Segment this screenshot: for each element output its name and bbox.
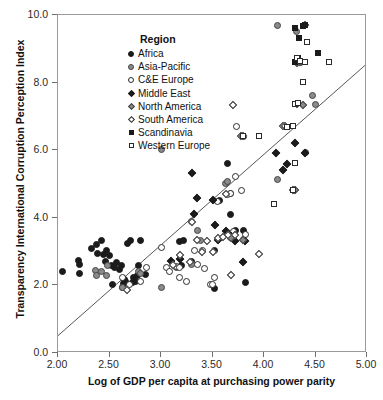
data-point	[240, 133, 246, 139]
data-point	[194, 261, 201, 268]
legend-item-western-europe[interactable]: Western Europe	[124, 139, 210, 152]
x-tick-label: 3.00	[150, 358, 170, 370]
data-point	[116, 266, 123, 273]
x-tick-label: 2.50	[98, 358, 118, 370]
data-point	[312, 101, 319, 108]
legend-item-label: North America	[138, 101, 201, 112]
legend-title: Region	[140, 33, 210, 45]
data-point	[188, 169, 196, 177]
data-point	[158, 284, 165, 291]
circle-filled-icon	[124, 51, 138, 57]
plot-area	[58, 15, 365, 351]
square-open-icon	[124, 143, 138, 148]
data-point	[292, 25, 298, 31]
legend-item-label: Western Europe	[138, 140, 210, 151]
legend-item-africa[interactable]: Africa	[124, 47, 210, 60]
x-tick	[263, 352, 264, 357]
y-axis-title: Transparency International Corruption Pe…	[14, 9, 26, 349]
legend-item-label: C&E Europe	[138, 74, 194, 85]
data-point	[224, 160, 231, 167]
legend-item-label: South America	[138, 114, 203, 125]
data-point	[309, 92, 316, 99]
data-point	[284, 124, 290, 130]
data-point	[59, 268, 66, 275]
y-tick-label: 4.0	[8, 211, 48, 223]
data-point	[76, 270, 83, 277]
data-point	[224, 178, 231, 185]
x-tick	[315, 352, 316, 357]
data-point	[302, 59, 308, 65]
y-tick-label: 0.0	[8, 346, 48, 358]
y-tick	[52, 352, 57, 353]
data-point	[227, 211, 234, 218]
data-point	[295, 100, 301, 106]
data-point	[272, 149, 280, 157]
data-point	[203, 237, 211, 245]
legend-item-label: Asia-Pacific	[138, 61, 190, 72]
diamond-gray-icon	[124, 104, 138, 109]
data-point	[104, 262, 111, 269]
data-point	[238, 187, 245, 194]
data-point	[180, 237, 187, 244]
data-point	[290, 123, 296, 129]
data-point	[233, 123, 240, 130]
data-point	[300, 79, 306, 85]
legend-item-label: Middle East	[138, 88, 190, 99]
data-point	[103, 272, 110, 279]
x-tick	[160, 352, 161, 357]
diamond-open-icon	[124, 117, 138, 122]
data-point	[201, 265, 208, 272]
data-point	[208, 248, 216, 256]
plot-frame: Region AfricaAsia-PacificC&E EuropeMiddl…	[57, 14, 366, 352]
y-tick-label: 8.0	[8, 76, 48, 88]
data-point	[229, 100, 237, 108]
data-point	[255, 250, 263, 258]
data-point	[176, 264, 183, 271]
data-point	[326, 59, 332, 65]
x-tick	[366, 352, 367, 357]
data-point	[137, 270, 144, 277]
legend-item-scandinavia[interactable]: Scandinavia	[124, 126, 210, 139]
legend-item-asia-pacific[interactable]: Asia-Pacific	[124, 60, 210, 73]
data-point	[271, 201, 277, 207]
data-point	[211, 274, 218, 281]
data-point	[296, 35, 302, 41]
data-point	[290, 187, 296, 193]
legend-item-north-america[interactable]: North America	[124, 100, 210, 113]
data-point	[315, 50, 321, 56]
x-tick	[57, 352, 58, 357]
legend-item-label: Scandinavia	[138, 127, 192, 138]
regression-line	[58, 15, 365, 351]
y-tick-label: 10.0	[8, 8, 48, 20]
data-point	[239, 257, 247, 265]
x-tick-label: 3.50	[201, 358, 221, 370]
circle-open-icon	[124, 77, 138, 83]
data-point	[183, 278, 190, 285]
data-point	[242, 279, 249, 286]
data-point	[109, 281, 116, 288]
data-point	[158, 244, 165, 251]
data-point	[304, 39, 310, 45]
data-point	[227, 271, 235, 279]
scatter-plot-figure: Transparency International Corruption Pe…	[0, 0, 383, 400]
data-point	[98, 237, 105, 244]
data-point	[274, 22, 281, 29]
data-point	[137, 278, 144, 285]
data-point	[210, 221, 218, 229]
y-tick-label: 2.0	[8, 278, 48, 290]
legend: Region AfricaAsia-PacificC&E EuropeMiddl…	[124, 33, 210, 153]
x-axis-title: Log of GDP per capita at purchasing powe…	[57, 375, 366, 387]
legend-item-c-e-europe[interactable]: C&E Europe	[124, 73, 210, 86]
data-point	[188, 218, 196, 226]
data-point	[194, 227, 201, 234]
data-point	[176, 274, 183, 281]
x-tick	[212, 352, 213, 357]
data-point	[143, 264, 150, 271]
x-tick-label: 5.00	[356, 358, 376, 370]
legend-item-middle-east[interactable]: Middle East	[124, 87, 210, 100]
x-tick-label: 2.00	[47, 358, 67, 370]
y-tick-label: 6.0	[8, 143, 48, 155]
x-tick	[109, 352, 110, 357]
data-point	[76, 261, 83, 268]
legend-item-south-america[interactable]: South America	[124, 113, 210, 126]
